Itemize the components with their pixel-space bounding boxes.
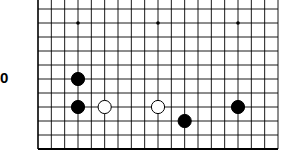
black-stone[interactable] <box>71 72 84 85</box>
black-stone[interactable] <box>71 100 84 113</box>
black-stone[interactable] <box>231 100 244 113</box>
star-point-icon <box>236 21 240 25</box>
white-stone[interactable] <box>151 100 164 113</box>
star-point-icon <box>76 21 80 25</box>
star-point-icon <box>156 21 160 25</box>
white-stone[interactable] <box>98 100 111 113</box>
black-stone[interactable] <box>178 114 191 127</box>
go-board[interactable] <box>0 0 282 153</box>
